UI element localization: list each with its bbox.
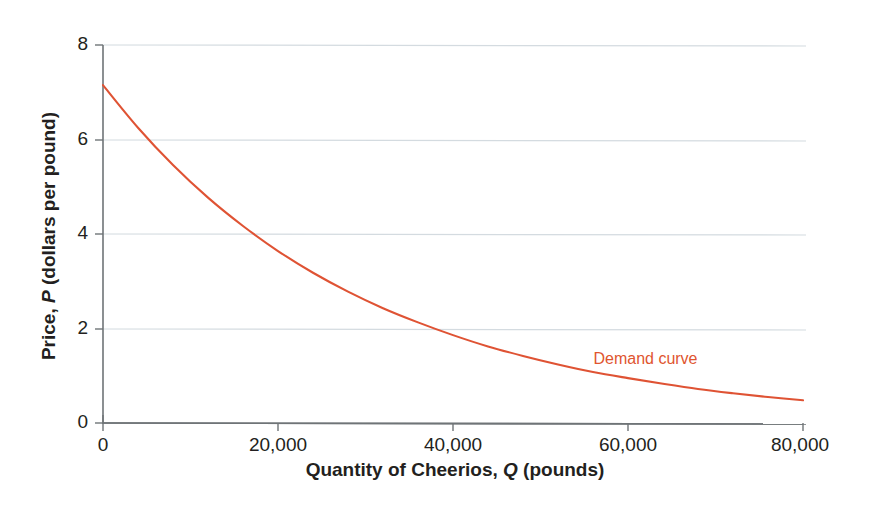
demand-curve-annotation: Demand curve (593, 350, 697, 367)
x-tick-label-0: 0 (98, 434, 109, 455)
y-tick-label-4: 4 (77, 222, 88, 243)
y-tick-label-6: 6 (77, 128, 88, 149)
y-tick-labels: 8 6 4 2 0 (77, 33, 88, 432)
x-axis-title: Quantity of Cheerios, Q (pounds) (306, 459, 605, 480)
y-axis-title: Price, P (dollars per pound) (38, 112, 59, 360)
demand-curve-line (103, 85, 803, 400)
x-tick-label-40000: 40,000 (424, 434, 482, 455)
gridline-y-8 (103, 45, 806, 46)
gridline-y-4 (103, 234, 806, 235)
x-tick-label-20000: 20,000 (249, 434, 307, 455)
gridline-y-6 (103, 140, 806, 141)
x-tick-labels: 0 20,000 40,000 60,000 80,000 (98, 434, 829, 455)
gridlines (103, 45, 806, 330)
y-tick-label-8: 8 (77, 33, 88, 54)
gridline-y-2 (103, 329, 806, 330)
chart-canvas: 8 6 4 2 0 0 20,000 40,000 60,000 80,000 … (0, 0, 871, 507)
y-tick-marks (95, 45, 103, 423)
demand-curve-figure: 8 6 4 2 0 0 20,000 40,000 60,000 80,000 … (0, 0, 871, 507)
x-tick-label-60000: 60,000 (599, 434, 657, 455)
y-tick-label-0: 0 (77, 411, 88, 432)
y-tick-label-2: 2 (77, 317, 88, 338)
x-tick-label-80000: 80,000 (771, 434, 829, 455)
